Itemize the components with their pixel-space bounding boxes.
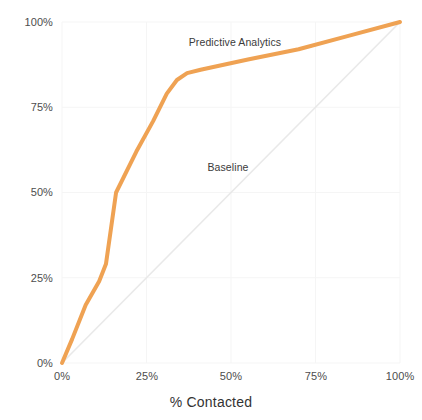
x-tick-label: 25% [136, 370, 158, 382]
y-tick-label: 75% [31, 101, 53, 113]
y-tick-label: 0% [37, 357, 53, 369]
series-label-baseline: Baseline [207, 161, 248, 173]
y-axis-tick-labels: 100% 75% 50% 25% 0% [0, 0, 53, 420]
y-tick-label: 50% [31, 186, 53, 198]
plot-area [62, 22, 400, 363]
gains-chart: % 100% 75% 50% 25% 0% 0% 25% 50% 75% 100… [0, 0, 422, 420]
x-axis-title: % Contacted [0, 394, 422, 410]
y-tick-label: 25% [31, 272, 53, 284]
y-tick-label: 100% [24, 16, 53, 28]
x-tick-label: 75% [305, 370, 327, 382]
x-tick-label: 100% [386, 370, 415, 382]
plot-svg [62, 22, 400, 363]
x-tick-label: 0% [54, 370, 70, 382]
series-label-predictive-analytics: Predictive Analytics [189, 36, 281, 48]
x-tick-label: 50% [220, 370, 242, 382]
